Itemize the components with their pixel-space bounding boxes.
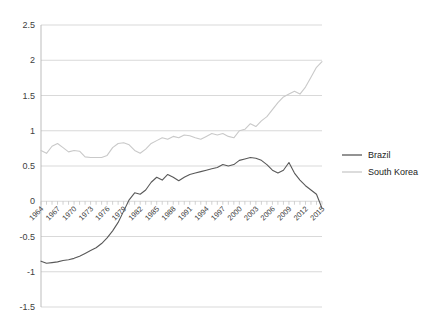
y-axis-tick-label: 0 — [30, 196, 35, 206]
y-axis-tick-label: -1.5 — [19, 302, 35, 312]
x-axis-tick-label: 1982 — [126, 204, 144, 222]
chart-container: 2.521.510.50-0.5-1-1.5 19641967197019731… — [0, 0, 430, 333]
y-axis-tick-label: 1 — [30, 126, 35, 136]
y-axis-tick-label: 2.5 — [22, 20, 35, 30]
x-axis-tick-label: 2009 — [275, 204, 293, 222]
y-axis-tick-label: -0.5 — [19, 232, 35, 242]
x-axis-tick-label: 1991 — [176, 204, 194, 222]
x-axis-tick-label: 1976 — [93, 204, 111, 222]
x-axis-tick-label: 1973 — [77, 204, 95, 222]
x-axis-tick-label: 2012 — [292, 204, 310, 222]
gridlines-group — [41, 25, 322, 307]
x-axis-tick-label: 1997 — [209, 204, 227, 222]
series-line-south-korea — [41, 62, 322, 158]
x-axis-tick-label: 1994 — [193, 204, 211, 222]
y-axis-tick-label: 0.5 — [22, 161, 35, 171]
x-axis-tick-label: 2003 — [242, 204, 260, 222]
x-axis-tick-label: 1964 — [27, 204, 45, 222]
line-chart: 2.521.510.50-0.5-1-1.5 19641967197019731… — [0, 0, 430, 333]
y-axis-tick-label: 1.5 — [22, 91, 35, 101]
y-axis-tick-label: 2 — [30, 55, 35, 65]
x-axis-tick-label: 2006 — [259, 204, 277, 222]
x-axis-tick-label: 1970 — [60, 204, 78, 222]
x-axis-tick-label: 1967 — [44, 204, 62, 222]
x-axis-tick-label: 1988 — [159, 204, 177, 222]
y-axis-tick-label: -1 — [27, 267, 35, 277]
x-axis-tick-label: 2015 — [308, 204, 326, 222]
x-axis-tick-label: 2000 — [226, 204, 244, 222]
chart-legend: BrazilSouth Korea — [342, 150, 418, 177]
legend-label-south-korea: South Korea — [368, 167, 418, 177]
legend-label-brazil: Brazil — [368, 150, 391, 160]
y-axis-labels-group: 2.521.510.50-0.5-1-1.5 — [19, 20, 35, 312]
x-axis-tickmarks-group — [41, 201, 322, 205]
x-axis-tick-label: 1985 — [143, 204, 161, 222]
series-group — [41, 62, 322, 264]
x-axis-labels-group: 1964196719701973197619791982198519881991… — [27, 204, 326, 222]
